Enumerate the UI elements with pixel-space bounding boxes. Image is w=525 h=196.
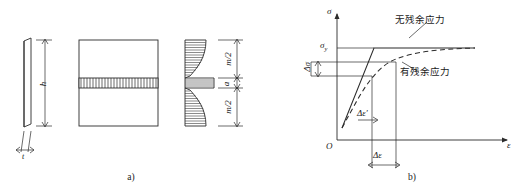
zone-label-lower: m/2 <box>223 100 233 114</box>
profile-hatching <box>185 43 214 124</box>
delta-sigma-label: Δσ <box>302 62 312 72</box>
annotation-no-residual-stress: 无残余应力 <box>395 12 445 26</box>
origin-label: O <box>326 141 333 151</box>
zone-label-upper: m/2 <box>223 52 233 66</box>
y-axis-label: σ <box>327 6 331 16</box>
plate-thickness-label: t <box>22 152 24 161</box>
panel-b-stress-strain-chart: σ ε O σy Δσ Δε′ Δε 无残余应力 有残余应力 <box>262 0 525 196</box>
delta-eps-prime-label: Δε′ <box>357 108 368 118</box>
delta-eps-dimension <box>368 162 400 168</box>
panel-a-svg <box>0 0 262 196</box>
panel-a-plate-diagram: h t m/2 a m/2 <box>0 0 262 196</box>
zone-label-middle: a <box>221 82 231 87</box>
plate-height-label: h <box>38 82 48 87</box>
caption-b: b) <box>408 172 416 182</box>
caption-a: a) <box>127 172 134 182</box>
delta-eps-label: Δε <box>373 150 382 160</box>
figure-root: h t m/2 a m/2 <box>0 0 525 196</box>
panel-b-svg <box>262 0 525 196</box>
annotation-with-residual-stress: 有残余应力 <box>400 64 450 78</box>
residual-stress-profile <box>185 40 214 126</box>
plate-face-view <box>79 40 158 126</box>
x-axis-label: ε <box>507 140 511 150</box>
delta-sigma-band <box>311 61 396 77</box>
thickness-dimension <box>16 131 34 153</box>
plate-edge-view <box>24 38 31 127</box>
yield-stress-subscript: y <box>324 45 327 52</box>
yield-stress-label: σy <box>320 40 327 52</box>
